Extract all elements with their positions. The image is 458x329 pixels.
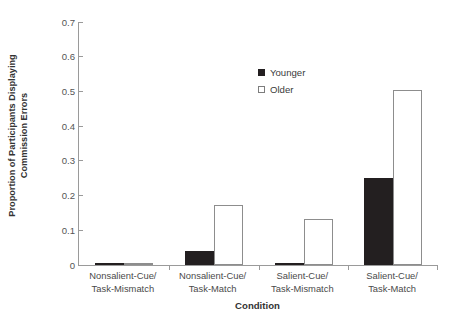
bar-group-1 — [79, 22, 169, 265]
bar-younger-1 — [95, 263, 124, 265]
y-tick-4: 0.4 — [62, 120, 79, 132]
bar-group-3 — [259, 22, 349, 265]
bar-younger-3 — [275, 263, 304, 265]
bar-chart-figure: Proportion of Participants Displaying Co… — [0, 0, 458, 329]
bar-older-3 — [304, 219, 333, 265]
legend-item-older: Older — [258, 84, 305, 95]
legend-label-older: Older — [270, 84, 293, 95]
y-tick-2: 0.2 — [62, 190, 79, 202]
legend-item-younger: Younger — [258, 67, 305, 78]
y-axis-title-line1: Proportion of Participants Displaying — [7, 54, 17, 216]
bar-older-2 — [214, 205, 243, 265]
bar-older-1 — [124, 263, 153, 265]
bar-younger-4 — [364, 178, 393, 265]
x-category-label-3: Salient-Cue/ Task-Mismatch — [258, 270, 348, 295]
bar-group-2 — [169, 22, 259, 265]
y-axis-title-line2: Commission Errors — [18, 54, 30, 216]
y-tick-5: 0.5 — [62, 85, 79, 97]
legend-label-younger: Younger — [270, 67, 305, 78]
y-tick-6: 0.6 — [62, 51, 79, 63]
x-tick-mark — [437, 265, 438, 270]
x-category-label-1: Nonsalient-Cue/ Task-Mismatch — [78, 270, 168, 295]
x-axis-title: Condition — [78, 300, 437, 311]
legend-swatch-younger-icon — [258, 69, 265, 76]
y-tick-7: 0.7 — [62, 16, 79, 28]
bar-older-4 — [393, 90, 422, 265]
plot-area: 0 0.1 0.2 0.3 0.4 0.5 0.6 0.7 — [78, 22, 438, 266]
legend-swatch-older-icon — [258, 86, 265, 93]
y-axis-title: Proportion of Participants Displaying Co… — [0, 0, 36, 270]
legend: Younger Older — [258, 67, 305, 101]
bar-group-4 — [348, 22, 438, 265]
x-category-label-2: Nonsalient-Cue/ Task-Match — [168, 270, 258, 295]
y-tick-1: 0.1 — [62, 224, 79, 236]
bar-younger-2 — [185, 251, 214, 265]
y-tick-3: 0.3 — [62, 155, 79, 167]
x-category-label-4: Salient-Cue/ Task-Match — [347, 270, 437, 295]
